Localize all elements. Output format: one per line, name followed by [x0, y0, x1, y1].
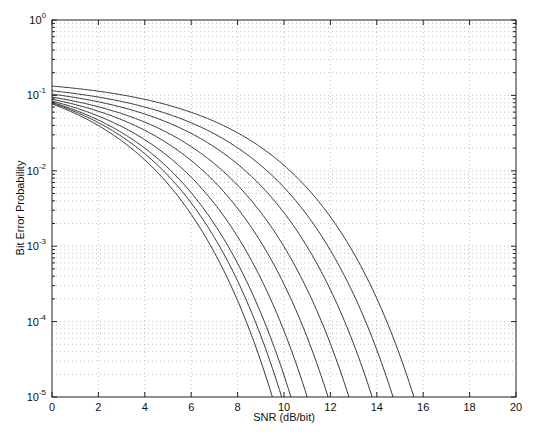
- y-tick-label: 10-3: [27, 237, 47, 252]
- x-tick-label: 0: [49, 401, 55, 413]
- y-axis-title: Bit Error Probability: [14, 160, 26, 255]
- y-tick-label: 10-4: [27, 313, 47, 328]
- x-tick-label: 2: [95, 401, 101, 413]
- grid-lines: [52, 20, 516, 397]
- ber-curve-2: [52, 103, 282, 397]
- x-tick-label: 12: [324, 401, 336, 413]
- x-axis-title: SNR (dB/bit): [253, 411, 315, 423]
- x-tick-label: 20: [510, 401, 522, 413]
- ber-curve-9: [52, 86, 414, 397]
- y-tick-label: 10-1: [27, 86, 47, 101]
- y-tick-label: 10-2: [27, 162, 47, 177]
- y-tick-label: 10-5: [27, 388, 47, 403]
- ber-curve-8: [52, 91, 393, 397]
- y-tick-label: 100: [29, 11, 46, 26]
- ber-curve-4: [52, 101, 307, 397]
- y-tick-labels: 10010-110-210-310-410-5: [27, 11, 47, 403]
- x-tick-label: 6: [188, 401, 194, 413]
- ber-chart: 02468101214161820 10010-110-210-310-410-…: [0, 0, 538, 440]
- ber-curves: [52, 86, 414, 397]
- x-tick-label: 8: [235, 401, 241, 413]
- x-tick-label: 16: [417, 401, 429, 413]
- x-tick-label: 18: [463, 401, 475, 413]
- x-tick-label: 14: [371, 401, 383, 413]
- ber-curve-1: [52, 104, 272, 397]
- ber-curve-6: [52, 97, 349, 397]
- ber-curve-5: [52, 99, 328, 397]
- x-tick-label: 4: [142, 401, 148, 413]
